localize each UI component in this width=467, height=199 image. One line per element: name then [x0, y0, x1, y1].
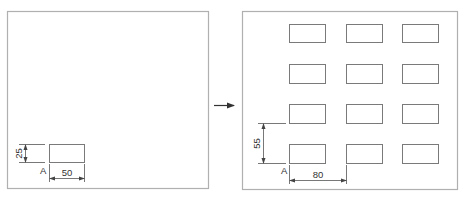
part-grid	[290, 25, 439, 164]
grid-part	[290, 145, 326, 164]
left-panel: 25 A 50	[8, 12, 209, 189]
grid-part	[403, 105, 439, 124]
layout-diagram: 25 A 50	[0, 0, 467, 199]
origin-a-label: A	[40, 165, 47, 176]
vertical-pitch-label: 55	[251, 138, 262, 149]
grid-part	[403, 65, 439, 84]
left-sheet-frame	[8, 12, 209, 189]
height-label: 25	[13, 148, 24, 159]
grid-part	[290, 25, 326, 43]
grid-part	[290, 105, 326, 124]
vertical-pitch-dimension: 55	[251, 124, 286, 164]
grid-part	[347, 105, 383, 124]
right-panel: 55 A 80	[243, 12, 458, 190]
grid-part	[347, 65, 383, 84]
width-label: 50	[62, 167, 73, 178]
height-dimension: 25	[13, 145, 45, 163]
single-part	[50, 145, 85, 163]
horizontal-pitch-label: 80	[313, 169, 324, 180]
horizontal-pitch-dimension: 80	[290, 165, 347, 184]
grid-part	[403, 25, 439, 43]
grid-part	[347, 145, 383, 164]
grid-part	[403, 145, 439, 164]
grid-part	[347, 25, 383, 43]
grid-part	[290, 65, 326, 84]
origin-a-label: A	[281, 165, 288, 176]
width-dimension: 50	[50, 164, 85, 182]
